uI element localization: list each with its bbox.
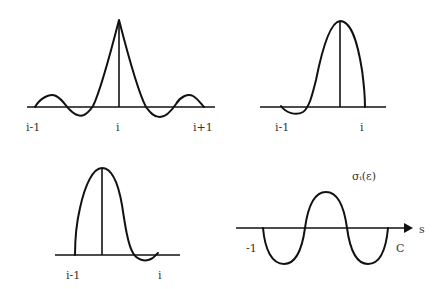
label-function-sigma: σᵢ(ε) [352,170,376,183]
diagram-canvas: i-1 i i+1 i-1 i i-1 i -1 C s σᵢ(ε) [0,0,444,289]
label-s-axis: s [419,223,425,236]
label-i-plus-1: i+1 [193,121,213,134]
label-c: C [396,242,404,255]
panel-bottom-right: -1 C s σᵢ(ε) [236,170,425,264]
basis-curve [281,21,365,114]
panel-top-right: i-1 i [260,21,386,134]
basis-curve [75,168,158,260]
label-i-minus-1: i-1 [275,121,289,134]
label-minus-1: -1 [246,242,257,255]
axis-arrow-icon [404,223,413,233]
label-i: i [158,269,162,282]
label-i: i [360,121,364,134]
label-i: i [116,121,120,134]
panel-bottom-left: i-1 i [55,168,180,282]
panel-top-left: i-1 i i+1 [26,20,215,134]
label-i-minus-1: i-1 [26,121,40,134]
label-i-minus-1: i-1 [66,269,80,282]
